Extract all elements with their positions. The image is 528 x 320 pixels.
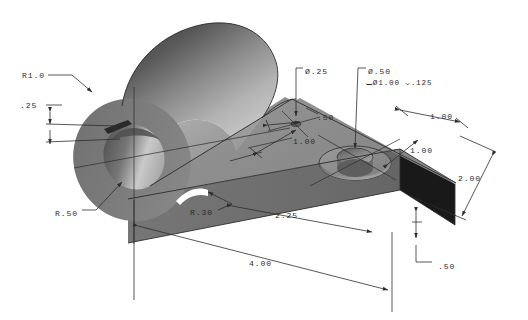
annotation-l-400: 4.00 (249, 259, 272, 268)
annotation-h-50: .50 (317, 113, 334, 122)
annotation-r-30: R.30 (190, 208, 213, 217)
annotation-w-200: 2.00 (458, 174, 481, 183)
technical-drawing-canvas: R1.0 .25 R.50 R.30 Ø.25 Ø.50 ⌴Ø1.00 ⌵.12… (0, 0, 528, 320)
ext-100-top-b (456, 118, 468, 128)
isometric-drawing-svg: R1.0 .25 R.50 R.30 Ø.25 Ø.50 ⌴Ø1.00 ⌵.12… (0, 0, 528, 320)
annotation-r-50: R.50 (55, 209, 78, 218)
counterbore-bore-bottom (337, 159, 373, 177)
annotation-dia-25: Ø.25 (305, 67, 328, 76)
annotation-counterbore-note: ⌴Ø1.00 ⌵.125 (366, 79, 432, 87)
ext-200-a (460, 136, 496, 152)
annotation-l-225: 2.25 (275, 211, 298, 220)
annotation-h-100-right: 1.00 (410, 146, 433, 155)
annotation-dia-50: Ø.50 (368, 67, 391, 76)
annotation-r1-0: R1.0 (22, 71, 45, 80)
leader-r1-0 (48, 75, 92, 92)
plate-right-end-face (400, 149, 455, 225)
dim-200 (462, 156, 492, 216)
annotation-h-100-left: 1.00 (293, 137, 316, 146)
leader-050-thick (416, 245, 432, 262)
annotation-t-50: .50 (438, 262, 455, 271)
annotation-h-100-top: 1.00 (430, 112, 453, 121)
annotation-025: .25 (20, 101, 37, 110)
dim-400 (138, 226, 388, 290)
